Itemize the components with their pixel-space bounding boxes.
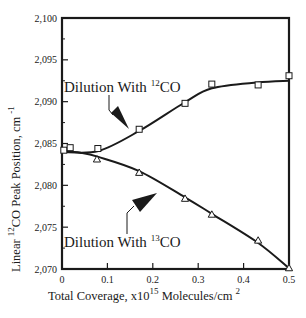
y-axis-title: Linear 12CO Peak Position, cm -1 [6,106,23,272]
annotation-arrows [109,95,157,234]
line-13co [62,151,289,268]
square-marker [136,126,142,132]
x-axis-title: Total Coverage, x1015 Molecules/cm 2 [48,286,240,303]
annotation-12co: Dilution With 12CO [64,78,181,95]
square-marker [286,73,292,79]
x-tick-label: 0.1 [101,274,114,285]
y-tick-label: 2,080 [35,180,58,191]
x-tick-label: 0 [60,274,65,285]
arrow-13co-stem [127,206,134,234]
arrow-13co-head [132,193,157,212]
y-tick-label: 2,100 [35,13,58,24]
plot-border [62,18,289,269]
y-tick-label: 2,085 [35,138,58,149]
arrow-12co-head [111,106,129,129]
plot-frame [62,18,289,269]
chart-svg: 2,0702,0752,0802,0852,0902,0952,100 00.1… [0,0,306,318]
x-tick-label: 0.2 [147,274,160,285]
y-tick-label: 2,095 [35,54,58,65]
x-tick-label: 0.4 [237,274,250,285]
square-marker [182,100,188,106]
annotation-13co: Dilution With 13CO [64,233,181,250]
y-tick-label: 2,090 [35,96,58,107]
y-tick-label: 2,070 [35,264,58,275]
chart: 2,0702,0752,0802,0852,0902,0952,100 00.1… [0,0,306,318]
square-marker [209,81,215,87]
x-tick-label: 0.3 [192,274,205,285]
y-tick-label: 2,075 [35,222,58,233]
x-axis-ticks: 00.10.20.30.40.5 [60,263,296,285]
square-marker [67,145,73,151]
x-tick-label: 0.5 [283,274,296,285]
square-marker [61,147,67,153]
square-marker [95,146,101,152]
square-marker [255,82,261,88]
